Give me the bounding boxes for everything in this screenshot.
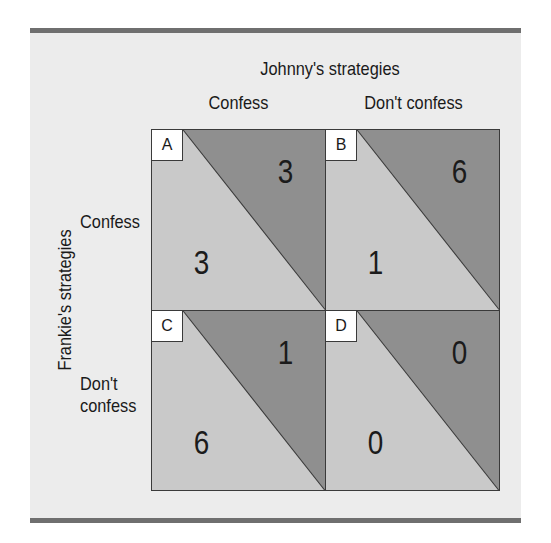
matrix-cell-a: A 3 3 bbox=[152, 130, 325, 310]
cell-label: B bbox=[326, 130, 357, 161]
matrix-cell-d: D 0 0 bbox=[326, 311, 499, 491]
frankie-payoff: 3 bbox=[194, 243, 210, 282]
cell-label: D bbox=[326, 311, 357, 342]
column-header-dont-confess: Don't confess bbox=[338, 92, 489, 114]
frankie-payoff: 6 bbox=[194, 423, 210, 462]
top-rule bbox=[30, 28, 521, 33]
cell-label: C bbox=[152, 311, 183, 342]
johnny-payoff: 3 bbox=[278, 152, 294, 191]
column-header-confess: Confess bbox=[163, 92, 314, 114]
johnny-payoff: 1 bbox=[278, 333, 294, 372]
johnny-payoff: 0 bbox=[452, 333, 468, 372]
frankie-payoff: 1 bbox=[368, 243, 384, 282]
cell-label: A bbox=[152, 130, 183, 161]
johnny-payoff: 6 bbox=[452, 152, 468, 191]
payoff-matrix: A 3 3 B 6 1 C 1 6 D 0 0 bbox=[151, 129, 500, 491]
matrix-cell-c: C 1 6 bbox=[152, 311, 325, 491]
row-header-dont-confess: Don't confess bbox=[80, 373, 136, 417]
frankie-payoff: 0 bbox=[368, 423, 384, 462]
column-player-title: Johnny's strategies bbox=[244, 58, 416, 80]
row-header-confess: Confess bbox=[80, 211, 140, 233]
matrix-cell-b: B 6 1 bbox=[326, 130, 499, 310]
row-player-title: Frankie's strategies bbox=[54, 229, 76, 370]
bottom-rule bbox=[30, 518, 521, 523]
